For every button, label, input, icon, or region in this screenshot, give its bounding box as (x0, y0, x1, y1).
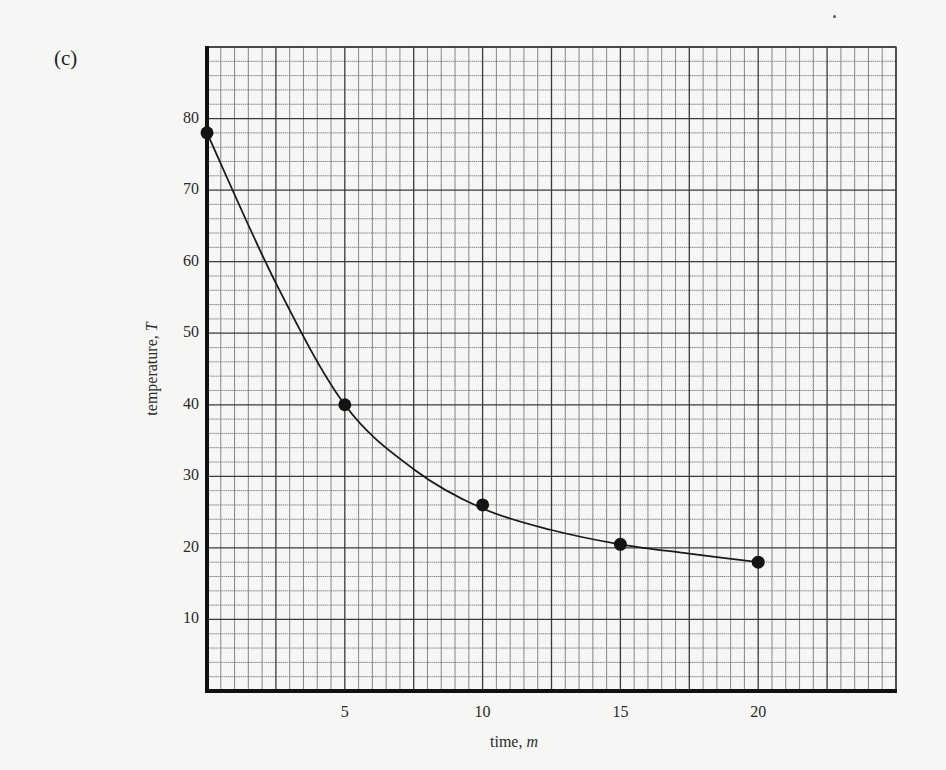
x-axis-label-variable: m (526, 733, 538, 750)
y-tick-label: 30 (159, 466, 199, 484)
major-gridlines (207, 47, 896, 691)
y-tick-label: 10 (159, 609, 199, 627)
data-point (614, 538, 627, 551)
y-tick-label: 70 (159, 180, 199, 198)
data-point (752, 556, 765, 569)
y-tick-label: 20 (159, 538, 199, 556)
x-tick-label: 20 (738, 703, 778, 721)
y-axis-label-text: temperature, (143, 331, 160, 415)
y-axis-label: temperature, T (143, 322, 161, 415)
data-point (201, 126, 214, 139)
y-tick-label: 80 (159, 109, 199, 127)
chart-plot-area (0, 0, 946, 770)
y-tick-label: 60 (159, 252, 199, 270)
x-tick-label: 10 (463, 703, 503, 721)
x-axis-label: time, m (490, 733, 538, 751)
y-tick-label: 40 (159, 395, 199, 413)
data-point (476, 498, 489, 511)
x-axis-label-text: time, (490, 733, 526, 750)
y-tick-label: 50 (159, 323, 199, 341)
data-point (338, 398, 351, 411)
y-axis-label-variable: T (143, 322, 160, 331)
x-tick-label: 5 (325, 703, 365, 721)
x-tick-label: 15 (600, 703, 640, 721)
